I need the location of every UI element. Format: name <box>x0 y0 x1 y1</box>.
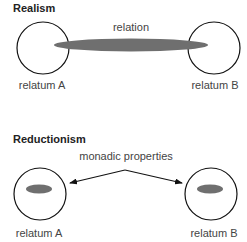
realism-title: Realism <box>13 2 55 14</box>
arrow-left-icon <box>70 170 125 183</box>
relation-label: relation <box>113 21 149 33</box>
realism-section: Realism relation relatum A relatum B <box>13 2 240 91</box>
relatum-a-label: relatum A <box>19 79 66 91</box>
arrow-right-icon <box>125 170 182 183</box>
relatum-a-circle <box>17 22 69 74</box>
monadic-property-b <box>197 185 223 194</box>
relatum-b-label: relatum B <box>190 227 237 239</box>
relatum-a-label: relatum A <box>16 227 63 239</box>
monadic-property-a <box>26 185 52 194</box>
relatum-b-label: relatum B <box>191 79 238 91</box>
reductionism-title: Reductionism <box>13 133 86 145</box>
relatum-b-circle <box>185 168 237 220</box>
reductionism-section: Reductionism monadic properties relatum … <box>13 133 238 239</box>
relatum-a-circle <box>14 168 66 220</box>
diagram-canvas: Realism relation relatum A relatum B Red… <box>0 0 247 242</box>
monadic-properties-label: monadic properties <box>79 150 173 162</box>
relation-ellipse <box>54 39 208 52</box>
